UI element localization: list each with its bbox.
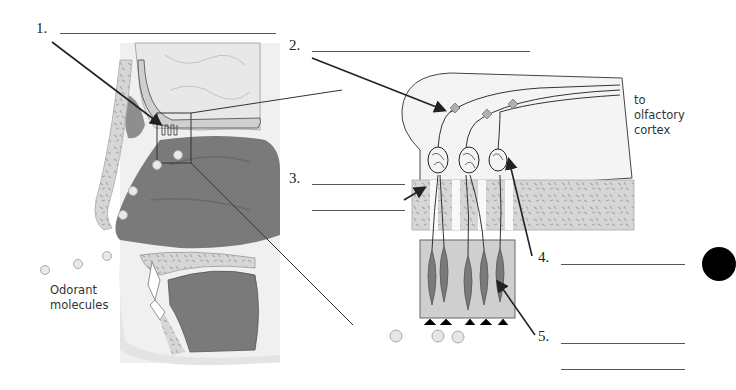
- label-3-answer-blank-2[interactable]: [312, 210, 405, 211]
- cortex-label-line-2: olfactory: [634, 108, 685, 123]
- label-3-answer-blank-1[interactable]: [312, 184, 405, 185]
- label-5-number: 5.: [538, 329, 549, 344]
- label-4-number: 4.: [538, 250, 549, 265]
- cortex-label-line-3: cortex: [634, 123, 685, 138]
- label-2-number: 2.: [289, 38, 300, 53]
- label-2-answer-blank[interactable]: [312, 51, 530, 52]
- label-5-answer-blank-2[interactable]: [561, 369, 685, 370]
- odorant-molecules-label: Odorant molecules: [50, 283, 108, 313]
- label-5-answer-blank-1[interactable]: [561, 343, 685, 344]
- head-section: [41, 43, 281, 365]
- label-4-answer-blank[interactable]: [561, 264, 685, 265]
- odorant-label-line-2: molecules: [50, 298, 108, 313]
- odorant-label-line-1: Odorant: [50, 283, 108, 298]
- page-edge-bullet: [702, 247, 736, 281]
- label-1-number: 1.: [36, 21, 47, 36]
- label-3-number: 3.: [289, 171, 300, 186]
- label-1-answer-blank[interactable]: [60, 33, 276, 34]
- olfactory-cortex-label: to olfactory cortex: [634, 93, 685, 138]
- cortex-label-line-1: to: [634, 93, 685, 108]
